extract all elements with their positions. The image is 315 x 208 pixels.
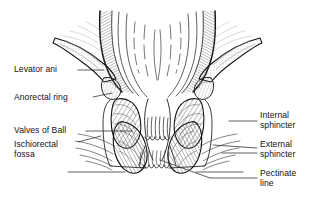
label-ischiorectal-fossa-line1: Ischiorectal — [14, 139, 58, 149]
label-internal-sphincter-line2: sphincter — [260, 120, 295, 130]
label-levator-ani: Levator ani — [14, 64, 57, 74]
label-ischiorectal-fossa-line2: fossa — [14, 149, 35, 159]
figure-canvas: Levator ani Anorectal ring Valves of Bal… — [0, 0, 315, 208]
label-pectinate-line-line2: line — [260, 178, 274, 188]
label-external-sphincter-line2: sphincter — [260, 149, 295, 159]
label-anorectal-ring: Anorectal ring — [14, 92, 68, 102]
label-external-sphincter-line1: External — [260, 139, 292, 149]
label-valves-of-ball: Valves of Ball — [14, 125, 66, 135]
label-pectinate-line-line1: Pectinate — [260, 168, 296, 178]
label-internal-sphincter-line1: Internal — [260, 110, 289, 120]
